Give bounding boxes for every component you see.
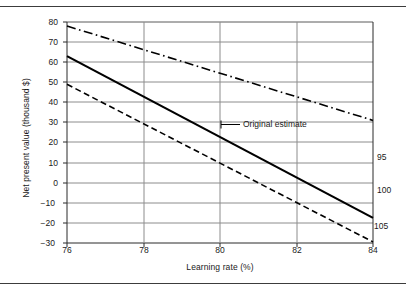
figure: 80 70 60 50 40 30 20 10 0 −10 −20 −30 76… xyxy=(0,0,406,292)
y-tick-label: 60 xyxy=(28,58,58,67)
x-axis-label: Learning rate (%) xyxy=(67,262,373,272)
y-tick-label: 40 xyxy=(28,98,58,107)
x-tick-label: 78 xyxy=(129,246,159,255)
y-tick-label: 70 xyxy=(28,38,58,47)
y-tick-label: 0 xyxy=(28,179,58,188)
y-tick-marks xyxy=(63,22,67,243)
y-tick-label: 20 xyxy=(28,138,58,147)
annotation-original-estimate: Original estimate xyxy=(243,120,307,129)
y-tick-label: 30 xyxy=(28,118,58,127)
x-tick-label: 82 xyxy=(282,246,312,255)
y-tick-label: 80 xyxy=(28,18,58,27)
x-tick-label: 80 xyxy=(205,246,235,255)
series-label-100: 100 xyxy=(377,186,391,195)
x-tick-label: 76 xyxy=(52,246,82,255)
y-axis-label: Net present value (thousand $) xyxy=(21,28,31,248)
y-tick-label: 10 xyxy=(28,159,58,168)
series-label-95: 95 xyxy=(377,153,386,162)
series-label-105: 105 xyxy=(374,222,388,231)
x-tick-label: 84 xyxy=(358,246,388,255)
y-tick-label: 50 xyxy=(28,78,58,87)
grid-vertical xyxy=(67,22,373,243)
